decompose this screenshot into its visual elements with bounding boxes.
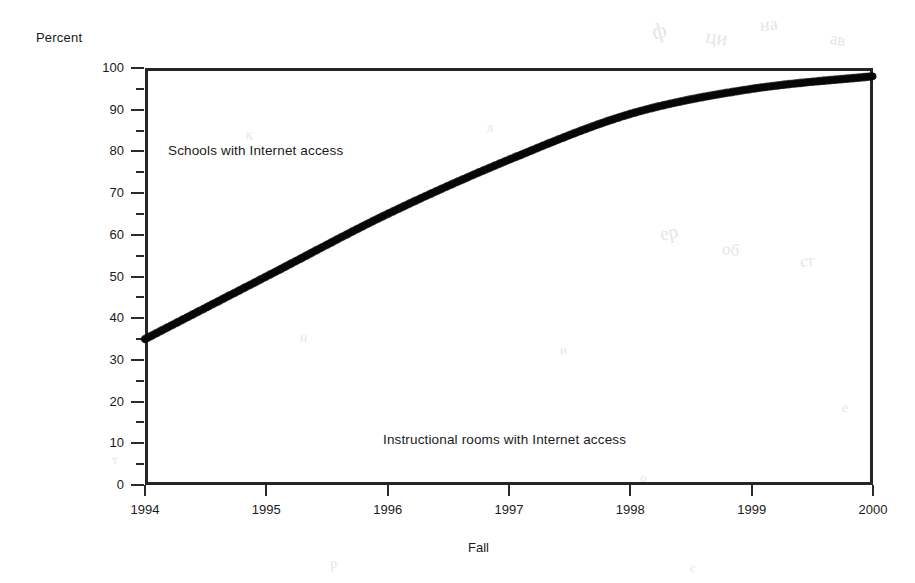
x-axis-title: Fall — [468, 540, 489, 555]
series-line-layer — [0, 0, 915, 583]
series-label-instructional-rooms-with-internet-access: Instructional rooms with Internet access — [383, 432, 626, 447]
series-line-texture-1 — [145, 76, 873, 339]
x-axis-title-wrapper: Fall — [0, 540, 915, 555]
series-label-schools-with-internet-access: Schools with Internet access — [168, 143, 343, 158]
series-line-1 — [145, 76, 873, 339]
chart-figure: фцинааверобстклниеторс Percent 010203040… — [0, 0, 915, 583]
